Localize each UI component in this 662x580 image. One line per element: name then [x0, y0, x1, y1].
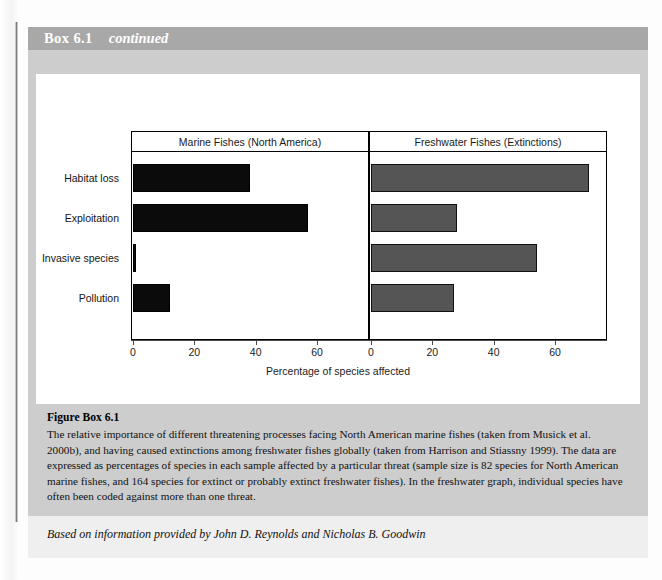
category-axis-labels: Habitat lossExploitationInvasive species… — [36, 152, 124, 340]
bar-marine-0 — [133, 164, 250, 192]
x-tick-label: 0 — [130, 346, 136, 358]
category-label: Exploitation — [65, 212, 119, 224]
attribution-text: Based on information provided by John D.… — [47, 527, 627, 542]
bar-marine-3 — [133, 284, 170, 312]
x-tick-label: 40 — [488, 346, 500, 358]
bar-freshwater-2 — [371, 244, 537, 272]
figure-caption-body: The relative importance of different thr… — [47, 428, 623, 502]
category-label: Habitat loss — [64, 172, 119, 184]
x-tick-label: 20 — [188, 346, 200, 358]
category-label: Pollution — [79, 292, 119, 304]
x-tick-label: 40 — [250, 346, 262, 358]
box-header-band: Box 6.1 continued — [28, 27, 648, 50]
bar-freshwater-0 — [371, 164, 589, 192]
x-axis-title: Percentage of species affected — [36, 365, 640, 377]
x-axis-line — [369, 340, 607, 341]
panel-header-marine: Marine Fishes (North America) — [131, 131, 369, 152]
panel-header-freshwater: Freshwater Fishes (Extinctions) — [369, 131, 607, 152]
x-tick-label: 0 — [368, 346, 374, 358]
x-tick-label: 20 — [426, 346, 438, 358]
figure-caption-title: Figure Box 6.1 — [47, 410, 627, 425]
box-title: Box 6.1 — [44, 30, 93, 47]
x-tick-label: 60 — [549, 346, 561, 358]
page-canvas: Box 6.1 continued Marine Fishes (North A… — [0, 0, 662, 580]
panel-title-marine: Marine Fishes (North America) — [132, 132, 368, 151]
bar-freshwater-3 — [371, 284, 454, 312]
bar-freshwater-1 — [371, 204, 457, 232]
bar-marine-2 — [133, 244, 136, 272]
bar-chart: Marine Fishes (North America) Freshwater… — [36, 74, 640, 404]
figure-caption: Figure Box 6.1 The relative importance o… — [47, 410, 627, 504]
book-spine-line — [15, 22, 18, 522]
category-label: Invasive species — [42, 252, 119, 264]
panel-title-freshwater: Freshwater Fishes (Extinctions) — [370, 132, 606, 151]
x-tick-label: 60 — [311, 346, 323, 358]
x-axis-line — [131, 340, 369, 341]
box-continued-label: continued — [109, 30, 169, 47]
bar-marine-1 — [133, 204, 308, 232]
figure-area: Marine Fishes (North America) Freshwater… — [36, 74, 640, 404]
